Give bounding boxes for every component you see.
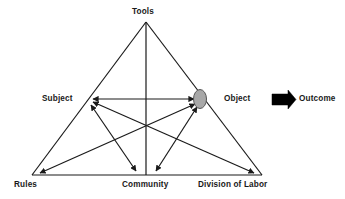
edge-object-community xyxy=(156,107,197,171)
activity-theory-diagram: Tools Subject Object Rules Community Div… xyxy=(0,0,345,199)
edge-subject-community xyxy=(91,105,136,171)
node-label-outcome: Outcome xyxy=(299,95,336,103)
node-label-rules: Rules xyxy=(14,181,37,189)
node-label-division-of-labor: Division of Labor xyxy=(198,181,267,189)
node-label-tools: Tools xyxy=(132,8,154,16)
outcome-arrow-icon xyxy=(272,90,296,109)
edge-subject-division xyxy=(93,102,254,173)
edge-object-rules xyxy=(40,104,195,173)
node-label-object: Object xyxy=(224,95,250,103)
node-label-subject: Subject xyxy=(42,95,73,103)
object-marker-ellipse xyxy=(194,90,207,109)
node-label-community: Community xyxy=(122,181,168,189)
